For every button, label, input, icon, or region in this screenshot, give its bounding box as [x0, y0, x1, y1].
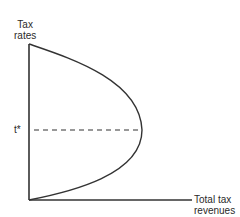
y-axis-label: Tax rates [14, 19, 36, 41]
y-axis-label-line1: Tax [14, 19, 36, 30]
t-star-label: t* [14, 124, 21, 135]
x-axis-label-line2: revenues [194, 205, 235, 216]
x-axis-label: Total tax revenues [194, 194, 235, 216]
x-axis-label-line1: Total tax [194, 194, 235, 205]
laffer-curve [29, 44, 142, 200]
y-axis-label-line2: rates [14, 30, 36, 41]
